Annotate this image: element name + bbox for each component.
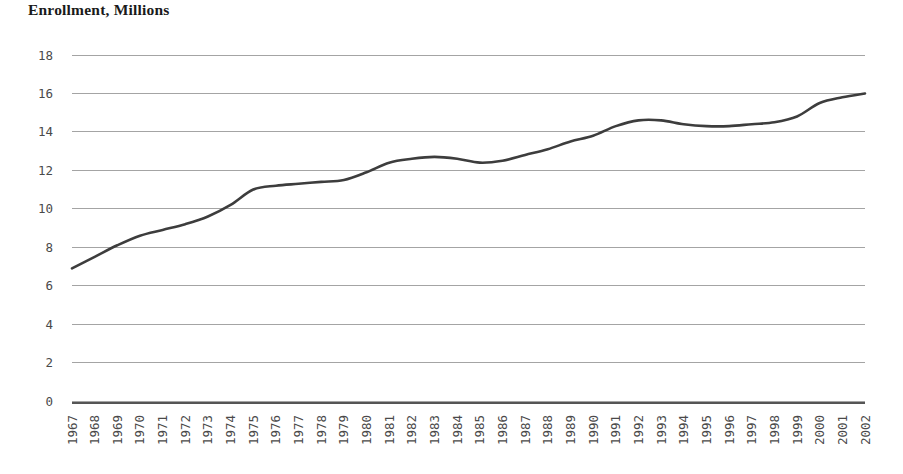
- x-axis-tick-label: 1994: [676, 415, 691, 445]
- x-axis-tick-labels: 1967196819691970197119721973197419751976…: [65, 415, 873, 445]
- x-axis-tick-label: 1967: [65, 415, 80, 445]
- x-axis-tick-label: 1976: [268, 415, 283, 445]
- x-axis-tick-label: 1992: [631, 415, 646, 445]
- x-axis-tick-label: 1993: [654, 415, 669, 445]
- y-axis-tick-label: 14: [38, 124, 53, 139]
- x-axis-tick-label: 2001: [835, 415, 850, 445]
- y-axis-tick-labels: 024681012141618: [38, 48, 53, 409]
- y-axis-tick-label: 6: [45, 278, 53, 293]
- x-axis-tick-label: 2000: [812, 415, 827, 445]
- x-axis-tick-label: 1973: [200, 415, 215, 445]
- x-axis-tick-label: 1990: [586, 415, 601, 445]
- x-axis-tick-label: 1997: [744, 415, 759, 445]
- gridlines: [72, 55, 865, 401]
- x-axis-tick-label: 1971: [155, 415, 170, 445]
- x-axis-tick-label: 1991: [608, 415, 623, 445]
- y-axis-tick-label: 0: [45, 394, 53, 409]
- y-axis-tick-label: 4: [45, 317, 53, 332]
- x-axis-tick-label: 1982: [404, 415, 419, 445]
- x-axis-tick-label: 1986: [495, 415, 510, 445]
- x-axis-tick-label: 1987: [518, 415, 533, 445]
- x-axis-tick-label: 1983: [427, 415, 442, 445]
- x-axis-tick-label: 1984: [450, 415, 465, 445]
- x-axis-tick-label: 1972: [178, 415, 193, 445]
- x-axis-tick-label: 1975: [246, 415, 261, 445]
- y-axis-tick-label: 16: [38, 86, 53, 101]
- x-axis-tick-label: 1974: [223, 415, 238, 445]
- x-axis-tick-label: 1985: [472, 415, 487, 445]
- x-axis-tick-label: 1979: [336, 415, 351, 445]
- enrollment-line: [72, 93, 865, 268]
- chart-container: Enrollment, Millions 024681012141618 196…: [0, 0, 903, 474]
- y-axis-tick-label: 12: [38, 163, 53, 178]
- x-axis-tick-label: 1978: [314, 415, 329, 445]
- y-axis-tick-label: 2: [45, 355, 53, 370]
- x-axis-tick-label: 1977: [291, 415, 306, 445]
- x-axis-tick-label: 1998: [767, 415, 782, 445]
- x-axis-tick-label: 1995: [699, 415, 714, 445]
- x-axis-tick-label: 1968: [87, 415, 102, 445]
- data-series-enrollment: [72, 93, 865, 268]
- x-axis-tick-label: 1980: [359, 415, 374, 445]
- x-axis-tick-label: 1969: [110, 415, 125, 445]
- y-axis-tick-label: 10: [38, 201, 53, 216]
- x-axis-tick-label: 1981: [382, 415, 397, 445]
- x-axis-tick-label: 2002: [858, 415, 873, 445]
- y-axis-tick-label: 8: [45, 240, 53, 255]
- x-axis-tick-label: 1989: [563, 415, 578, 445]
- y-axis-tick-label: 18: [38, 48, 53, 63]
- line-chart-plot: 024681012141618 196719681969197019711972…: [0, 0, 903, 474]
- x-axis-tick-label: 1970: [132, 415, 147, 445]
- x-axis-tick-label: 1999: [790, 415, 805, 445]
- x-axis-tick-label: 1988: [540, 415, 555, 445]
- x-axis-tick-label: 1996: [722, 415, 737, 445]
